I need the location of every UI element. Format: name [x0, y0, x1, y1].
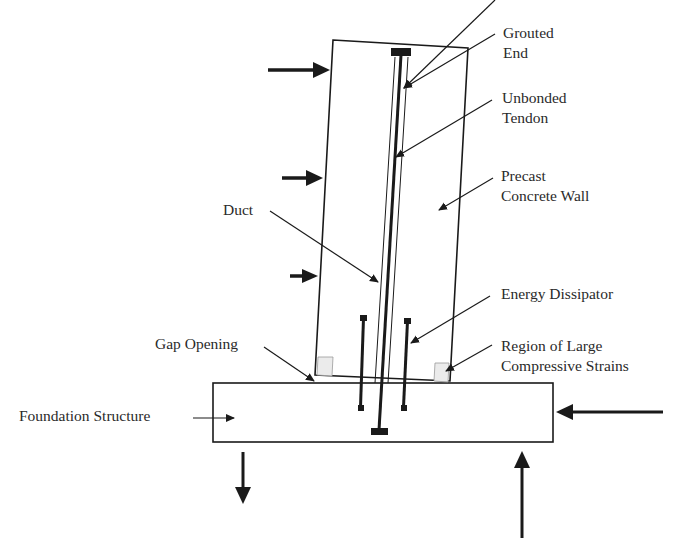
label-unbonded-tendon: Unbonded Tendon	[502, 88, 567, 128]
lateral-load-middle-arrow	[282, 170, 323, 186]
grouted-end-anchor	[391, 48, 411, 56]
label-precast-wall-line1: Precast	[501, 166, 589, 186]
label-energy-dissipator: Energy Dissipator	[501, 284, 613, 304]
label-unbonded-tendon-line1: Unbonded	[502, 88, 567, 108]
label-foundation: Foundation Structure	[19, 406, 150, 426]
label-unbonded-tendon-line2: Tendon	[502, 108, 567, 128]
label-precast-wall: Precast Concrete Wall	[501, 166, 589, 206]
label-compressive-region-line2: Compressive Strains	[501, 356, 629, 376]
lateral-load-bottom-arrow	[290, 269, 318, 283]
foundation-horizontal-reaction-arrow	[556, 404, 663, 420]
leader-gap-opening	[264, 347, 314, 381]
label-precast-wall-line2: Concrete Wall	[501, 186, 589, 206]
compressive-strain-region-left	[317, 357, 333, 376]
wall-diagram	[0, 0, 681, 550]
foundation-vertical-reaction-right-arrow	[514, 451, 530, 538]
bottom-anchor	[371, 428, 388, 435]
label-duct: Duct	[223, 200, 253, 220]
label-compressive-region: Region of Large Compressive Strains	[501, 336, 629, 376]
leader-compressive-region	[446, 345, 492, 371]
label-grouted-end: Grouted End	[503, 23, 554, 63]
compressive-strain-region-right	[434, 363, 449, 382]
label-gap-opening: Gap Opening	[155, 334, 238, 354]
label-grouted-end-line2: End	[503, 43, 554, 63]
label-compressive-region-line1: Region of Large	[501, 336, 629, 356]
lateral-load-top-arrow	[268, 62, 330, 78]
foundation-vertical-reaction-left-arrow	[235, 452, 251, 504]
label-grouted-end-line1: Grouted	[503, 23, 554, 43]
